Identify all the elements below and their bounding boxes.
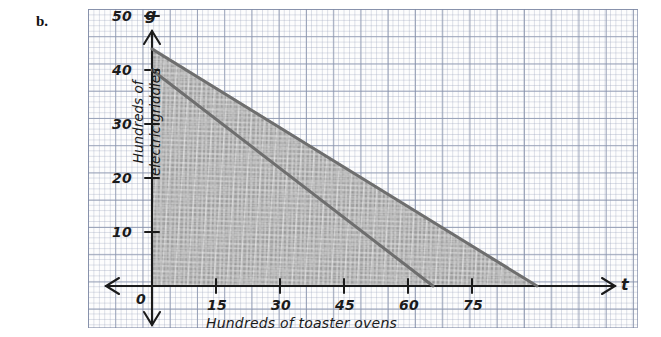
y-axis-title-line-1: Hundreds of [130,37,147,207]
origin-label: 0 [136,291,146,307]
problem-letter-label: b. [36,13,48,30]
y-tick-label-30: 30 [112,116,132,132]
y-tick-label-50: 50 [112,9,132,24]
y-tick-label-20: 20 [112,170,132,186]
y-axis-title: Hundreds of electric griddles [130,37,164,207]
x-tick-label-15: 15 [207,297,227,313]
y-axis-title-line-2: electric griddles [147,37,164,207]
y-axis-variable-label: g [145,9,156,24]
y-tick-label-10: 10 [112,224,132,240]
x-tick-label-60: 60 [399,297,419,313]
y-tick-label-40: 40 [112,62,132,78]
x-axis-variable-label: t [621,275,629,294]
x-tick-label-30: 30 [271,297,291,313]
plot-drawing [88,9,638,328]
x-tick-label-75: 75 [463,297,483,313]
figure-root: b. [0,0,661,337]
x-tick-label-45: 45 [335,297,355,313]
x-axis-title: Hundreds of toaster ovens [206,315,397,328]
graph-paper-panel: 10 20 30 40 50 15 30 45 60 75 0 g t Hund… [88,9,638,328]
